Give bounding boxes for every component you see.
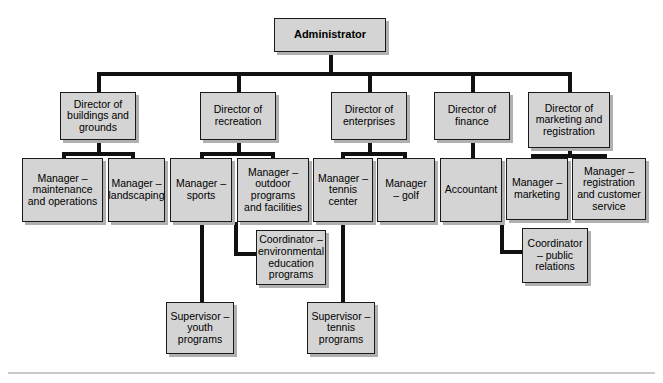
node-coordinator-environmental[interactable]: Coordinator – environmental education pr…	[256, 230, 326, 285]
node-director-enterprises[interactable]: Director of enterprises	[331, 92, 407, 140]
node-director-enterprises-label: Director of enterprises	[335, 104, 403, 127]
node-manager-golf[interactable]: Manager – golf	[377, 158, 435, 222]
node-administrator[interactable]: Administrator	[274, 18, 386, 52]
node-director-marketing-label: Director of marketing and registration	[532, 103, 606, 138]
connector-environmental-elbow-h	[234, 252, 256, 256]
connector-enterprises-bus	[341, 152, 407, 156]
node-manager-tennis-center[interactable]: Manager – tennis center	[313, 158, 373, 222]
node-director-finance-label: Director of finance	[438, 104, 506, 127]
connector-public-relations-elbow-h	[500, 250, 522, 254]
node-accountant-label: Accountant	[445, 184, 498, 196]
connector-drop-finance	[471, 72, 475, 92]
node-manager-landscaping[interactable]: Manager – landscaping	[108, 158, 165, 222]
node-manager-maintenance-label: Manager – maintenance and operations	[26, 173, 99, 208]
connector-buildings-bus	[62, 152, 135, 156]
node-supervisor-tennis[interactable]: Supervisor – tennis programs	[307, 302, 375, 354]
node-administrator-label: Administrator	[294, 29, 366, 41]
node-director-marketing[interactable]: Director of marketing and registration	[528, 92, 610, 148]
connector-public-relations-elbow-v	[500, 220, 504, 254]
node-manager-landscaping-label: Manager – landscaping	[108, 178, 164, 201]
connector-drop-buildings	[97, 72, 101, 92]
connector-drop-marketing	[568, 72, 572, 92]
node-manager-golf-label: Manager – golf	[381, 178, 431, 201]
node-supervisor-youth-label: Supervisor – youth programs	[170, 311, 230, 346]
node-manager-outdoor[interactable]: Manager – outdoor programs and facilitie…	[237, 158, 309, 222]
connector-drop-tennis-supervisor	[341, 222, 345, 302]
node-manager-sports[interactable]: Manager – sports	[170, 158, 232, 222]
node-director-recreation[interactable]: Director of recreation	[200, 92, 276, 140]
node-accountant[interactable]: Accountant	[440, 158, 502, 222]
node-manager-outdoor-label: Manager – outdoor programs and facilitie…	[241, 167, 305, 213]
connector-drop-enterprises	[368, 72, 372, 92]
connector-drop-accountant	[471, 140, 475, 160]
bottom-divider	[8, 372, 655, 374]
connector-drop-recreation	[237, 72, 241, 92]
node-director-recreation-label: Director of recreation	[204, 104, 272, 127]
org-chart: Administrator Director of buildings and …	[0, 0, 663, 383]
node-manager-tennis-center-label: Manager – tennis center	[317, 173, 369, 208]
node-manager-maintenance[interactable]: Manager – maintenance and operations	[22, 158, 103, 222]
node-manager-registration[interactable]: Manager – registration and customer serv…	[572, 158, 646, 220]
connector-level1-bus	[97, 72, 572, 76]
node-manager-marketing-label: Manager – marketing	[510, 177, 564, 200]
connector-recreation-bus	[200, 152, 275, 156]
node-coordinator-environmental-label: Coordinator – environmental education pr…	[258, 234, 324, 280]
connector-root-stem	[329, 52, 333, 74]
node-supervisor-youth[interactable]: Supervisor – youth programs	[166, 302, 234, 354]
node-coordinator-public-relations[interactable]: Coordinator – public relations	[522, 228, 588, 283]
connector-drop-youth	[200, 222, 204, 302]
node-manager-registration-label: Manager – registration and customer serv…	[576, 166, 642, 212]
node-director-finance[interactable]: Director of finance	[434, 92, 510, 140]
connector-environmental-elbow-v	[234, 222, 238, 256]
node-coordinator-public-relations-label: Coordinator – public relations	[526, 238, 584, 273]
node-manager-sports-label: Manager – sports	[174, 178, 228, 201]
node-manager-marketing[interactable]: Manager – marketing	[506, 158, 568, 220]
node-director-buildings-label: Director of buildings and grounds	[64, 99, 132, 134]
node-supervisor-tennis-label: Supervisor – tennis programs	[311, 311, 371, 346]
node-director-buildings[interactable]: Director of buildings and grounds	[60, 92, 136, 140]
